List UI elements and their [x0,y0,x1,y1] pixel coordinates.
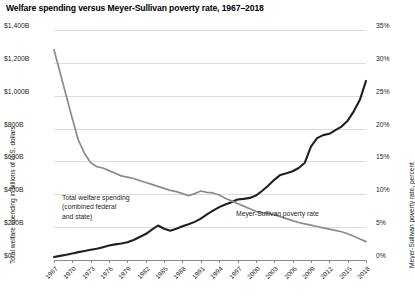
right-axis-tick: 5% [376,219,386,227]
left-axis-tick: $200B [4,219,24,227]
annotation-poverty-label: Meyer-Sullivan poverty rate [236,209,319,218]
x-axis-tickmark [366,260,367,263]
chart-title: Welfare spending versus Meyer-Sullivan p… [6,3,264,13]
left-axis-tick: $1,200B [4,55,29,63]
left-axis-tick: $0 [4,252,12,260]
left-axis-tick: $400B [4,186,24,194]
right-axis-tick: 10% [376,186,390,194]
left-axis-title: Total welfare spending in billions of U.… [9,126,16,264]
series-lines [54,30,366,261]
right-axis-tick: 15% [376,153,390,161]
spending-line [54,81,366,257]
right-axis-tick: 20% [376,121,390,129]
annotation-spending-label: Total welfare spending (combined federal… [62,193,130,221]
right-axis-tick: 25% [376,88,390,96]
plot-area: $1,400B$1,200B$1,000B$800B$600B$400B$200… [54,30,366,260]
right-axis-tick: 30% [376,55,390,63]
left-axis-tick: $1,000B [4,88,29,96]
right-axis-tick: 35% [376,22,390,30]
right-axis-title: Meyer-Sullivan poverty rate, percent [408,162,415,268]
left-axis-tick: $600B [4,153,24,161]
left-axis-tick: $1,400B [4,22,29,30]
left-axis-tick: $800B [4,121,24,129]
right-axis-tick: 0% [376,252,386,260]
